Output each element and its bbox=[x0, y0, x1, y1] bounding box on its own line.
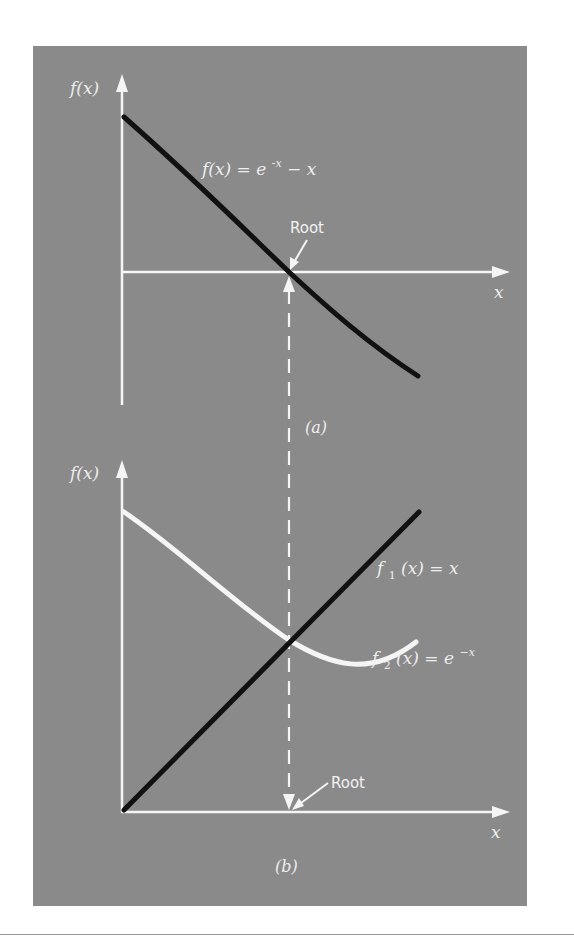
panel-b-f2-label-rest: (x) = e bbox=[396, 648, 454, 668]
panel-b-f2-label: f 2 (x) = e −x bbox=[370, 646, 476, 673]
panel-a-y-axis-label: f(x) bbox=[68, 78, 99, 98]
panel-a-caption: (a) bbox=[305, 418, 327, 437]
panel-b-y-axis-label: f(x) bbox=[68, 463, 99, 483]
panel-a-curve-label: f(x) = e -x − x bbox=[200, 151, 317, 179]
panel-b-curve-f2 bbox=[124, 512, 416, 664]
panel-b-f1-label-name: f bbox=[375, 558, 386, 578]
panel-b-f2-label-sub: 2 bbox=[384, 659, 391, 672]
graph-canvas: f(x) x f(x) = e -x − x Root (a) bbox=[0, 0, 574, 947]
panel-b-f1-label-rest: (x) = x bbox=[401, 558, 459, 578]
panel-b-y-axis-arrow-icon bbox=[116, 460, 128, 478]
panel-b-x-axis-label: x bbox=[491, 822, 501, 842]
panel-a-curve-label-lhs: f(x) = e bbox=[200, 159, 266, 179]
panel-a-curve-f bbox=[124, 117, 418, 376]
panel-a-y-axis-arrow-icon bbox=[116, 74, 128, 92]
panel-a-x-axis-arrow-icon bbox=[492, 266, 510, 278]
panel-a-curve-label-rhs: − x bbox=[287, 159, 317, 179]
panel-b-f2-label-name: f bbox=[370, 648, 381, 668]
panel-b-x-axis-arrow-icon bbox=[492, 806, 510, 818]
panel-b-root-label: Root bbox=[331, 774, 365, 792]
panel-a-root-pointer-arrow-icon bbox=[290, 257, 299, 270]
panel-a-root-label: Root bbox=[290, 219, 324, 237]
panel-a-x-axis-label: x bbox=[494, 282, 504, 302]
panel-b-f2-label-exponent: −x bbox=[459, 646, 475, 659]
panel-b-f1-label-sub: 1 bbox=[389, 569, 396, 582]
panel-b-root-pointer-arrow-icon bbox=[292, 798, 304, 810]
panel-b-f1-label: f 1 (x) = x bbox=[375, 558, 459, 583]
panel-a-curve-label-exponent: -x bbox=[272, 157, 283, 170]
figure: f(x) x f(x) = e -x − x Root (a) bbox=[0, 0, 574, 947]
panel-b-caption: (b) bbox=[275, 857, 298, 876]
root-connector-down-arrow-icon bbox=[283, 794, 295, 810]
